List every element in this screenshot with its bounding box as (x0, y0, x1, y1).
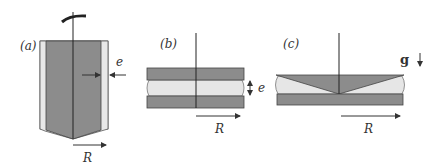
panel-a-label: (a) (20, 39, 37, 53)
panel-b: (b) e R (147, 33, 265, 136)
gravity-label: g (400, 52, 409, 67)
rheometer-geometries-diagram: (a) e R (b) e R (c) g R (0, 0, 445, 166)
radius-label-a: R (82, 151, 92, 165)
gap-label-b: e (258, 81, 265, 95)
bottom-plate-c (277, 94, 403, 105)
panel-c: (c) g R (276, 33, 421, 136)
gap-label-a: e (116, 55, 123, 69)
rotation-arc-icon (62, 16, 86, 22)
panel-b-label: (b) (160, 37, 177, 51)
panel-a: (a) e R (20, 12, 126, 165)
radius-label-c: R (363, 122, 373, 136)
radius-label-b: R (214, 122, 224, 136)
panel-c-label: (c) (283, 37, 299, 51)
